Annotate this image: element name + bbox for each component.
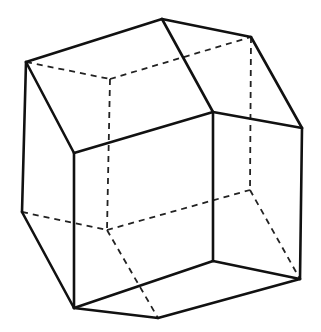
visible-edge-A-B bbox=[26, 62, 74, 153]
visible-edge-E-R3 bbox=[213, 261, 300, 279]
hidden-edge-L-H2 bbox=[22, 212, 107, 230]
hidden-edge-H3-R3 bbox=[250, 190, 300, 279]
hidden-edges bbox=[22, 37, 300, 318]
visible-edge-C-R2 bbox=[213, 112, 302, 128]
visible-edge-B-C bbox=[74, 112, 213, 153]
visible-edge-D-Bot bbox=[74, 308, 158, 318]
polyhedron-diagram bbox=[0, 0, 321, 332]
hidden-edge-H2-H3 bbox=[107, 190, 250, 230]
visible-edge-T-C bbox=[162, 19, 213, 112]
visible-edges bbox=[22, 19, 302, 318]
visible-edge-A-T bbox=[26, 19, 162, 62]
visible-edge-R1-R2 bbox=[251, 37, 302, 128]
hidden-edge-H1-H2 bbox=[107, 79, 110, 230]
visible-edge-R2-R3 bbox=[300, 128, 302, 279]
visible-edge-Bot-R3 bbox=[158, 279, 300, 318]
visible-edge-A-L bbox=[22, 62, 26, 212]
visible-edge-T-R1 bbox=[162, 19, 251, 37]
visible-edge-D-E bbox=[74, 261, 213, 308]
hidden-edge-A-H1 bbox=[26, 62, 110, 79]
hidden-edge-H1-R1 bbox=[110, 37, 251, 79]
hidden-edge-H2-Bot bbox=[107, 230, 158, 318]
visible-edge-L-D bbox=[22, 212, 74, 308]
hidden-edge-R1-H3 bbox=[250, 37, 251, 190]
